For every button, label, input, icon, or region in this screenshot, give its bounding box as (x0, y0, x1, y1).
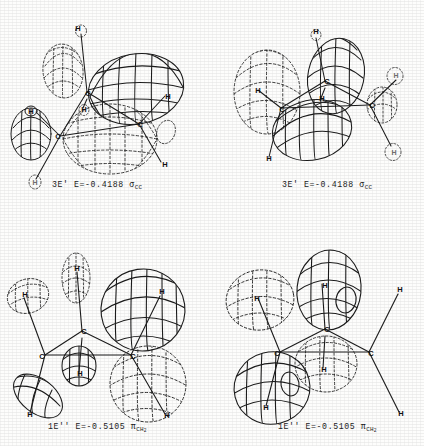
atom-label-h: H (397, 285, 402, 294)
atom-label-h: H (74, 264, 79, 273)
atom-label-c: C (324, 77, 330, 86)
atom-label-h: H (313, 27, 318, 36)
atom-label-c: C (279, 105, 285, 114)
atom-label-h: H (266, 154, 271, 163)
atom-label-c: C (274, 349, 280, 358)
orbital-panel-bottom-left: H H C C C H H H H 1E'' E=-0.5105 πCH2 (0, 228, 212, 446)
panel-caption-top-right: 3E' E=-0.4188 σCC (282, 180, 372, 191)
atom-label-h: H (22, 290, 27, 299)
atom-label-h: H (75, 24, 80, 33)
orbital-lobe-dashed-large (221, 262, 298, 335)
atom-label-h: H (77, 369, 82, 378)
orbital-lobe-solid-lower (226, 344, 317, 432)
caption-energy-label: E=-0.5105 (76, 422, 126, 431)
atom-label-c: C (130, 352, 136, 361)
atom-label-h: H (159, 287, 164, 296)
atom-label-h: H (32, 179, 37, 186)
panel-caption-top-left: 3E' E=-0.4188 σCC (52, 180, 142, 191)
orbital-plot-top-left: H C H C H C H H H (0, 4, 212, 200)
caption-symmetry-subscript-count: 2 (374, 428, 377, 433)
atom-label-c: C (368, 349, 374, 358)
caption-symmetry-subscript: CH (366, 426, 374, 433)
caption-orbital-label: 1E'' (48, 422, 70, 431)
atom-label-group: H H C C C H H H H (22, 264, 169, 420)
atom-label-h: H (255, 86, 260, 95)
orbital-panel-top-right: H H C H C H H H C 3E' E=-0.4188 σCC (212, 4, 424, 200)
atom-label-c: C (81, 327, 87, 336)
orbital-plot-bottom-left: H H C C C H H H H (0, 228, 212, 446)
atom-label-c: C (137, 120, 143, 129)
caption-energy-label: E=-0.5105 (306, 422, 356, 431)
atom-label-h: H (319, 94, 324, 103)
atom-label-c: C (85, 89, 91, 98)
orbital-lobe-solid-small (61, 344, 97, 388)
atom-label-h: H (165, 92, 170, 101)
panel-caption-bottom-left: 1E'' E=-0.5105 πCH2 (48, 422, 147, 433)
atom-label-c: C (39, 352, 45, 361)
caption-symmetry-subscript-count: 2 (144, 428, 147, 433)
orbital-lobe-solid-upper (293, 247, 365, 333)
atom-label-c: C (55, 132, 61, 141)
caption-orbital-label: 1E'' (278, 422, 300, 431)
orbital-plot-bottom-right: H H C C C H H H H (212, 228, 424, 446)
caption-energy-label: E=-0.4188 (74, 180, 124, 189)
atom-label-h: H (254, 294, 259, 303)
caption-symmetry-subscript: CH (136, 426, 144, 433)
orbital-panel-top-left: H C H C H C H H H 3E' E=-0.4188 σCC (0, 4, 212, 200)
atom-label-h: H (27, 410, 32, 419)
molecular-orbital-figure: H C H C H C H H H 3E' E=-0.4188 σCC (0, 0, 424, 446)
caption-symmetry-subscript: CC (365, 184, 373, 191)
orbital-lobe-dashed-large (109, 342, 187, 423)
atom-label-c: C (324, 325, 330, 334)
orbital-lobe-solid-lower (267, 92, 358, 167)
caption-orbital-label: 3E' (52, 180, 69, 189)
atom-label-h: H (162, 160, 167, 169)
orbital-lobe-solid-large (96, 261, 191, 356)
caption-energy-label: E=-0.4188 (304, 180, 354, 189)
atom-label-h: H (322, 281, 327, 290)
atom-label-group: H H C H C H H H C (255, 27, 398, 163)
atom-label-group: H H C C C H H H H (254, 281, 403, 418)
panel-caption-bottom-right: 1E'' E=-0.5105 πCH2 (278, 422, 377, 433)
atom-label-h: H (321, 365, 326, 374)
orbital-plot-top-right: H H C H C H H H C (212, 4, 424, 200)
orbital-panel-bottom-right: H H C C C H H H H 1E'' E=-0.5105 πCH2 (212, 228, 424, 446)
caption-symmetry-subscript: CC (135, 184, 143, 191)
atom-label-h: H (398, 409, 403, 418)
bond-framework (258, 38, 396, 157)
atom-label-h: H (28, 107, 33, 116)
atom-label-h: H (164, 411, 169, 420)
caption-orbital-label: 3E' (282, 180, 299, 189)
atom-label-h: H (393, 72, 398, 79)
orbital-lobe-satellite (311, 30, 403, 161)
atom-label-h: H (81, 105, 86, 114)
atom-label-h: H (263, 403, 268, 412)
orbital-lobe-dashed-small (62, 252, 90, 306)
orbital-lobe-satellite (29, 25, 179, 189)
atom-label-c: C (369, 101, 375, 110)
atom-label-h: H (391, 149, 396, 156)
orbital-lobe-dashed-large (234, 49, 300, 135)
orbital-lobe-dashed-small (3, 273, 53, 318)
atom-label-group: H C H C H C H H H (28, 24, 170, 186)
orbital-lobe-dashed-small (40, 42, 85, 102)
orbital-lobe-solid-small (5, 365, 70, 426)
